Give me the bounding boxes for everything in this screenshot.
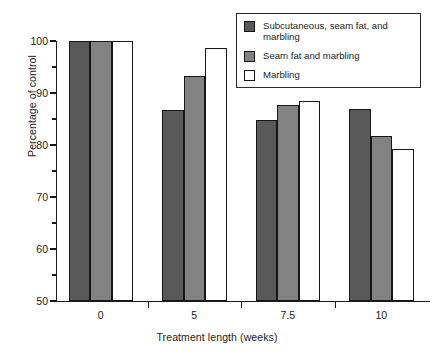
y-tick-label: 60 [20, 243, 48, 255]
legend-item-seam-fat-and-marbling: Seam fat and marbling [244, 50, 413, 62]
y-tick-major [50, 248, 56, 249]
y-tick-minor [52, 170, 56, 171]
y-tick-major [50, 144, 56, 145]
bar [162, 110, 184, 301]
y-tick-minor [52, 118, 56, 119]
x-axis-title: Treatment length (weeks) [0, 331, 434, 343]
bar-chart: Percentage of control Treatment length (… [0, 0, 434, 352]
x-tick-label: 5 [191, 309, 197, 321]
legend-item-marbling: Marbling [244, 69, 413, 81]
y-tick-minor [52, 222, 56, 223]
y-tick-minor [52, 66, 56, 67]
y-tick-label: 80 [20, 139, 48, 151]
legend: Subcutaneous, seam fat, and marbling Sea… [236, 13, 421, 88]
y-tick-label: 50 [20, 295, 48, 307]
y-tick-label: 90 [20, 87, 48, 99]
y-tick-label: 100 [20, 35, 48, 47]
y-tick-label: 70 [20, 191, 48, 203]
x-tick-label: 10 [375, 309, 387, 321]
bar [256, 120, 278, 301]
bar [90, 41, 112, 301]
x-tick-separator [241, 301, 242, 308]
x-tick-separator [148, 301, 149, 308]
legend-label: Marbling [263, 69, 300, 80]
y-tick-minor [52, 274, 56, 275]
y-tick-major [50, 300, 56, 301]
bar [184, 76, 206, 301]
legend-item-subcutaneous-seam-fat-and-marbling: Subcutaneous, seam fat, and marbling [244, 20, 413, 43]
dark-gray-swatch-icon [244, 21, 255, 32]
x-tick-separator [335, 301, 336, 308]
bar [277, 105, 299, 301]
white-swatch-icon [244, 70, 255, 81]
bar [112, 41, 134, 301]
y-tick-major [50, 196, 56, 197]
x-tick-label: 0 [98, 309, 104, 321]
x-tick-label: 7.5 [280, 309, 295, 321]
bar [69, 41, 91, 301]
medium-gray-swatch-icon [244, 51, 255, 62]
bar [392, 149, 414, 301]
y-tick-major [50, 40, 56, 41]
y-axis-line [56, 41, 57, 301]
bar [371, 136, 393, 301]
bar [349, 109, 371, 301]
bar [299, 101, 321, 301]
legend-label: Subcutaneous, seam fat, and marbling [263, 20, 413, 43]
x-axis-line [56, 301, 430, 302]
bar [205, 48, 227, 301]
legend-label: Seam fat and marbling [263, 50, 360, 61]
y-tick-major [50, 92, 56, 93]
